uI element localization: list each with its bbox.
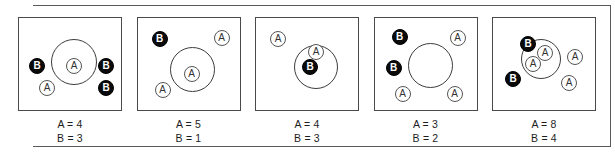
panel-5: A A B A B A A = 8 B = 4 bbox=[490, 5, 598, 146]
panel-1-token-a-inside-1: A bbox=[66, 58, 82, 74]
panel-4-token-a-outside-1: A bbox=[450, 30, 466, 46]
panel-2-caption: A = 5 B = 1 bbox=[176, 118, 202, 146]
panel-2-token-a-inside-1: A bbox=[184, 66, 200, 82]
panel-3-caption-b: B = 3 bbox=[294, 132, 320, 146]
panel-2-caption-b: B = 1 bbox=[176, 132, 202, 146]
panel-4-caption-a: A = 3 bbox=[413, 118, 439, 132]
panel-5-caption-a: A = 8 bbox=[531, 118, 557, 132]
panel-3-caption-a: A = 4 bbox=[294, 118, 320, 132]
bottom-rule bbox=[33, 146, 611, 147]
panel-4-caption: A = 3 B = 2 bbox=[413, 118, 439, 146]
panel-1-caption-b: B = 3 bbox=[57, 132, 83, 146]
panel-1-caption: A = 4 B = 3 bbox=[57, 118, 83, 146]
panel-2-token-a-outside-1: A bbox=[214, 30, 230, 46]
panel-5-token-a-outside-2: A bbox=[561, 75, 577, 91]
panel-5-token-b-outside-1: B bbox=[505, 71, 521, 87]
panel-1-token-b-outside-1: B bbox=[29, 58, 45, 74]
panel-1-stage: A B B B A bbox=[18, 17, 122, 111]
panel-3-stage: A B A bbox=[255, 17, 359, 111]
panel-2-caption-a: A = 5 bbox=[176, 118, 202, 132]
panel-4: B B A A A A = 3 B = 2 bbox=[372, 5, 480, 146]
panel-3-caption: A = 4 B = 3 bbox=[294, 118, 320, 146]
panel-1: A B B B A A = 4 B = 3 bbox=[16, 5, 124, 146]
panel-1-caption-a: A = 4 bbox=[57, 118, 83, 132]
figure-root: A B B B A A = 4 B = 3 A B A A A = 5 B bbox=[0, 0, 615, 158]
panel-2-token-a-outside-2: A bbox=[155, 82, 171, 98]
panel-5-stage: A A B A B A bbox=[492, 17, 596, 111]
panel-1-token-a-outside-1: A bbox=[39, 80, 55, 96]
panel-1-token-b-outside-2: B bbox=[98, 58, 114, 74]
panel-5-token-a-inside-2: A bbox=[525, 56, 541, 72]
panel-4-token-b-outside-1: B bbox=[392, 29, 408, 45]
panel-2-stage: A B A A bbox=[137, 17, 241, 111]
panel-1-token-b-outside-3: B bbox=[98, 80, 114, 96]
right-rule bbox=[610, 5, 611, 147]
panel-4-token-a-outside-3: A bbox=[447, 86, 463, 102]
panel-2: A B A A A = 5 B = 1 bbox=[135, 5, 243, 146]
panel-4-token-b-outside-2: B bbox=[386, 60, 402, 76]
panel-3-token-a-inside-1: A bbox=[308, 44, 324, 60]
panel-4-circle bbox=[408, 43, 453, 88]
panel-4-token-a-outside-2: A bbox=[395, 86, 411, 102]
panel-3-token-a-outside-1: A bbox=[270, 31, 286, 47]
panel-4-stage: B B A A A bbox=[374, 17, 478, 111]
panel-4-caption-b: B = 2 bbox=[413, 132, 439, 146]
panel-5-caption: A = 8 B = 4 bbox=[531, 118, 557, 146]
panel-row: A B B B A A = 4 B = 3 A B A A A = 5 B bbox=[0, 5, 610, 146]
panel-3: A B A A = 4 B = 3 bbox=[253, 5, 361, 146]
panel-5-token-b-boundary-1: B bbox=[520, 36, 536, 52]
panel-3-token-b-inside-1: B bbox=[302, 59, 318, 75]
panel-2-token-b-outside-1: B bbox=[152, 31, 168, 47]
panel-5-token-a-outside-1: A bbox=[567, 49, 583, 65]
panel-5-caption-b: B = 4 bbox=[531, 132, 557, 146]
